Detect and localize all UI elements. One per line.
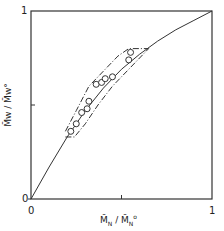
- axes-frame: [28, 11, 212, 199]
- x-tick-0: 0: [28, 206, 34, 216]
- y-tick-0: 0: [22, 194, 28, 204]
- chart-plot: [0, 0, 224, 231]
- y-axis-label: M̄w / M̄w°: [3, 83, 13, 127]
- data-series: [31, 11, 212, 199]
- y-tick-1: 1: [21, 6, 27, 16]
- x-tick-1: 1: [209, 206, 215, 216]
- x-axis-label: M̄N / M̄No: [100, 212, 137, 229]
